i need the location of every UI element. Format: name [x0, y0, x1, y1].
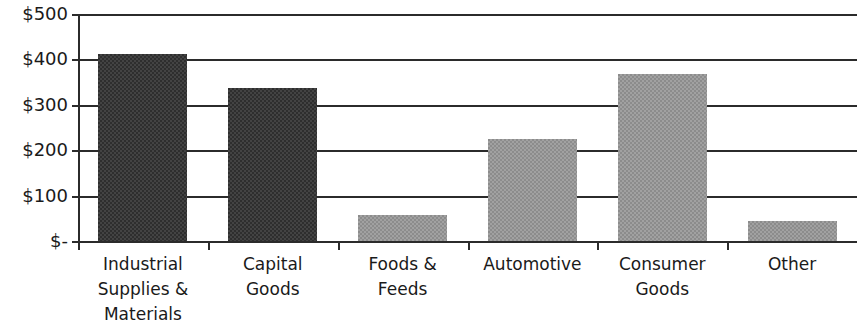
bar — [488, 139, 577, 241]
gridline — [78, 196, 857, 198]
x-axis-tick — [597, 241, 599, 250]
y-axis-tick — [72, 14, 84, 16]
gridline — [78, 59, 857, 61]
bar — [748, 221, 837, 241]
x-axis-tick — [338, 241, 340, 250]
y-axis-tick-label: $- — [0, 232, 68, 250]
y-axis-tick-label: $400 — [0, 50, 68, 68]
bar-chart: $500 $400 $300 $200 $100 $- Industrial S… — [0, 0, 857, 331]
x-axis-tick — [727, 241, 729, 250]
x-axis-category-label: Other — [727, 252, 857, 277]
y-axis-tick-label: $300 — [0, 96, 68, 114]
y-axis-line — [78, 14, 80, 241]
y-axis-tick — [72, 59, 84, 61]
x-axis-labels: Industrial Supplies & MaterialsCapital G… — [78, 252, 857, 331]
y-axis-tick-label: $200 — [0, 141, 68, 159]
x-axis-category-label: Consumer Goods — [597, 252, 727, 302]
y-axis-tick — [72, 196, 84, 198]
x-axis-tick — [78, 241, 80, 250]
y-axis-tick-label: $500 — [0, 5, 68, 23]
x-axis-tick — [208, 241, 210, 250]
bar — [228, 88, 317, 241]
bar — [98, 54, 187, 241]
x-axis-category-label: Industrial Supplies & Materials — [78, 252, 208, 327]
x-axis-category-label: Automotive — [468, 252, 598, 277]
x-axis-category-label: Capital Goods — [208, 252, 338, 302]
y-axis-tick — [72, 150, 84, 152]
gridline — [78, 105, 857, 107]
y-axis-labels: $500 $400 $300 $200 $100 $- — [0, 0, 68, 331]
x-axis-category-label: Foods & Feeds — [338, 252, 468, 302]
gridline — [78, 14, 857, 16]
gridline — [78, 150, 857, 152]
y-axis-tick — [72, 105, 84, 107]
plot-area — [78, 14, 857, 241]
x-axis-tick — [468, 241, 470, 250]
bar — [618, 74, 707, 241]
bar — [358, 215, 447, 241]
y-axis-tick-label: $100 — [0, 187, 68, 205]
